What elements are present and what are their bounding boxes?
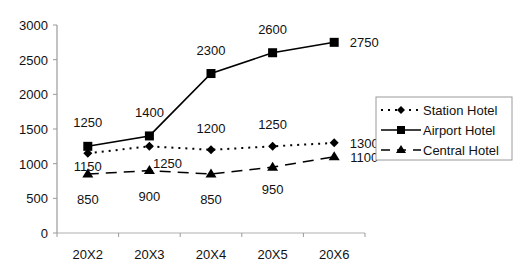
y-tick-label: 2500 [19, 53, 48, 68]
x-tick-label: 20X6 [319, 247, 349, 262]
axes: 05001000150020002500300020X220X320X420X5… [19, 18, 365, 262]
square-marker [268, 48, 277, 57]
diamond-marker [145, 142, 154, 151]
legend-label: Central Hotel [423, 143, 499, 158]
data-label: 1400 [135, 105, 164, 120]
data-labels: 1150125012001250130012501400230026002750… [73, 22, 378, 207]
x-tick-label: 20X4 [196, 247, 226, 262]
series-central-hotel [82, 151, 339, 177]
data-label: 1100 [350, 150, 378, 165]
data-label: 1300 [350, 136, 379, 151]
data-label: 900 [139, 189, 161, 204]
series-group [82, 38, 339, 178]
y-tick-label: 500 [26, 191, 48, 206]
diamond-marker [268, 142, 277, 151]
square-marker [83, 142, 92, 151]
triangle-marker [329, 151, 340, 160]
data-label: 2750 [350, 35, 379, 50]
y-tick-label: 0 [41, 226, 48, 241]
legend: Station HotelAirport HotelCentral Hotel [376, 97, 512, 160]
y-tick-label: 2000 [19, 87, 48, 102]
data-label: 850 [200, 192, 222, 207]
data-label: 950 [262, 182, 284, 197]
x-tick-label: 20X3 [134, 247, 164, 262]
data-label: 1250 [258, 117, 287, 132]
data-label: 2300 [197, 43, 226, 58]
legend-label: Airport Hotel [423, 123, 495, 138]
data-label: 1250 [73, 115, 102, 130]
data-label: 850 [77, 192, 99, 207]
x-tick-label: 20X2 [73, 247, 103, 262]
square-marker [330, 38, 339, 47]
legend-label: Station Hotel [423, 103, 498, 118]
y-tick-label: 1500 [19, 122, 48, 137]
x-tick-label: 20X5 [257, 247, 287, 262]
diamond-marker [330, 138, 339, 147]
square-marker [145, 131, 154, 140]
diamond-marker [207, 145, 216, 154]
data-label: 2600 [258, 22, 287, 37]
line-chart: 05001000150020002500300020X220X320X420X5… [0, 0, 520, 275]
y-tick-label: 1000 [19, 157, 48, 172]
square-marker [397, 126, 405, 134]
square-marker [207, 69, 216, 78]
data-label: 1250 [153, 156, 182, 171]
data-label: 1200 [197, 121, 226, 136]
y-tick-label: 3000 [19, 18, 48, 33]
data-label: 1150 [74, 159, 102, 174]
